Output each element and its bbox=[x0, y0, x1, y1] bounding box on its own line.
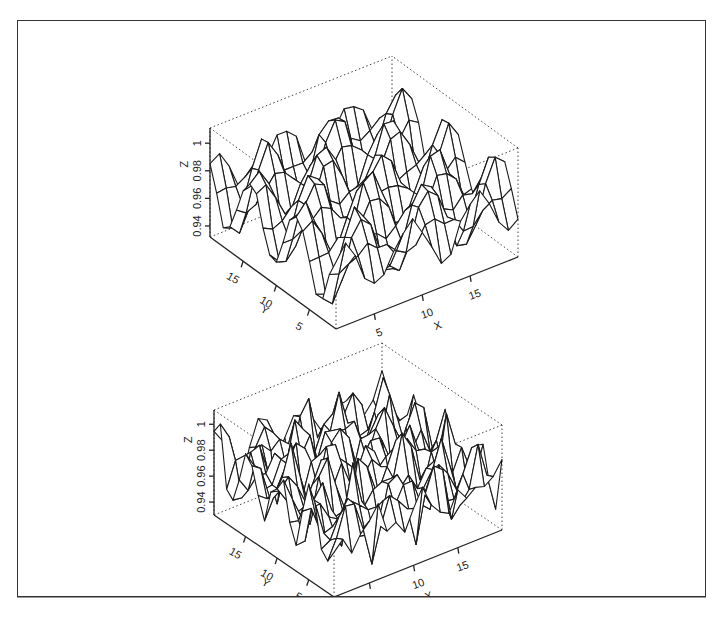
surface-plot-bottom: 0.940.960.981Z51015X51015Y bbox=[182, 343, 502, 608]
surface-mesh bbox=[214, 371, 502, 564]
y-tick bbox=[241, 261, 243, 267]
z-tick-label: 0.96 bbox=[195, 465, 207, 486]
x-tick-label: 15 bbox=[455, 558, 471, 573]
y-tick bbox=[307, 580, 309, 586]
z-tick-label: 0.94 bbox=[195, 491, 207, 512]
y-tick-label: 5 bbox=[294, 319, 305, 332]
x-tick bbox=[414, 565, 415, 571]
x-tick-label: 5 bbox=[369, 594, 379, 607]
z-tick-label: 1 bbox=[191, 140, 203, 146]
z-tick-label: 0.96 bbox=[191, 188, 203, 209]
z-tick-label: 0.94 bbox=[191, 215, 203, 236]
y-tick-label: 15 bbox=[225, 269, 242, 286]
x-tick bbox=[470, 276, 471, 282]
z-tick-label: 0.98 bbox=[191, 160, 203, 181]
x-axis-label: X bbox=[423, 589, 435, 603]
x-tick bbox=[369, 583, 370, 589]
box-edge bbox=[382, 343, 502, 425]
y-tick bbox=[244, 537, 246, 543]
x-tick bbox=[422, 295, 423, 301]
surface-facet bbox=[487, 459, 502, 509]
y-tick-label: 5 bbox=[293, 590, 304, 603]
x-tick-label: 10 bbox=[419, 305, 435, 320]
z-axis-label: Z bbox=[182, 436, 194, 443]
x-tick-label: 10 bbox=[410, 576, 426, 591]
z-tick-label: 1 bbox=[195, 421, 207, 427]
plots-canvas: 0.940.960.981Z51015X51015Y 0.940.960.981… bbox=[0, 0, 719, 623]
z-axis-label: Z bbox=[178, 160, 190, 167]
surface-plot-top: 0.940.960.981Z51015X51015Y bbox=[178, 56, 518, 339]
x-tick bbox=[374, 314, 375, 320]
x-tick bbox=[458, 548, 459, 554]
y-tick bbox=[307, 310, 309, 316]
y-tick bbox=[275, 558, 277, 564]
x-tick-label: 15 bbox=[467, 286, 483, 301]
x-tick-label: 5 bbox=[374, 325, 384, 338]
y-tick-label: 15 bbox=[227, 545, 244, 562]
z-tick-label: 0.98 bbox=[195, 439, 207, 460]
x-axis-label: X bbox=[432, 318, 444, 332]
y-tick bbox=[274, 285, 276, 291]
